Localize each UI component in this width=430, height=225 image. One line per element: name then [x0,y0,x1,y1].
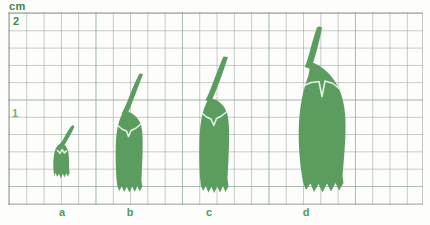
specimen-label-c: c [199,206,219,218]
specimen-label-b: b [120,206,140,218]
axis-tick-2: 2 [13,15,19,27]
specimen-label-a: a [52,206,72,218]
axis-unit-label: cm [9,0,26,12]
specimen-label-d: d [296,206,316,218]
graph-paper-grid [8,12,423,205]
flower-bud-scale-diagram: cm 2 1 .bud { fill:#5a9d5e; } .notch { f… [0,0,430,225]
axis-tick-1: 1 [12,107,18,119]
